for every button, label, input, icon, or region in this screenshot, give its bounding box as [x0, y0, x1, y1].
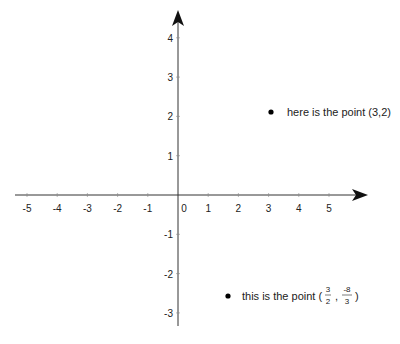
x-tick-label: -3 [83, 203, 92, 214]
x-tick-label: -2 [113, 203, 122, 214]
point2-label: this is the point ( 3 2 , -8 3 ) [242, 285, 359, 306]
svg-text:-8: -8 [343, 285, 351, 294]
y-tick-label: -1 [164, 229, 173, 240]
y-tick-label: 2 [167, 111, 173, 122]
x-tick-label: 4 [296, 203, 302, 214]
point-3-2 [268, 109, 273, 114]
svg-text:2: 2 [326, 297, 331, 306]
point1-label: here is the point (3,2) [287, 106, 391, 118]
point-3half-neg8third [225, 293, 230, 298]
x-tick-label: -1 [143, 203, 152, 214]
x-ticks: -5-4-3-2-1012345 [23, 193, 333, 214]
x-tick-label: 1 [205, 203, 211, 214]
x-tick-label: 3 [266, 203, 272, 214]
y-tick-label: 3 [167, 72, 173, 83]
coordinate-plane: -5-4-3-2-1012345 4321-1-2-3 here is the … [0, 0, 400, 344]
y-tick-label: -2 [164, 269, 173, 280]
svg-text:,: , [335, 290, 338, 302]
y-tick-label: -3 [164, 308, 173, 319]
x-tick-label: 0 [181, 203, 187, 214]
svg-text:): ) [355, 290, 359, 302]
svg-text:3: 3 [326, 285, 331, 294]
y-tick-label: 4 [167, 33, 173, 44]
svg-text:3: 3 [345, 297, 350, 306]
x-tick-label: 5 [326, 203, 332, 214]
svg-text:this is the point (: this is the point ( [242, 290, 322, 302]
x-tick-label: 2 [236, 203, 242, 214]
x-tick-label: -5 [23, 203, 32, 214]
y-tick-label: 1 [167, 151, 173, 162]
x-tick-label: -4 [53, 203, 62, 214]
